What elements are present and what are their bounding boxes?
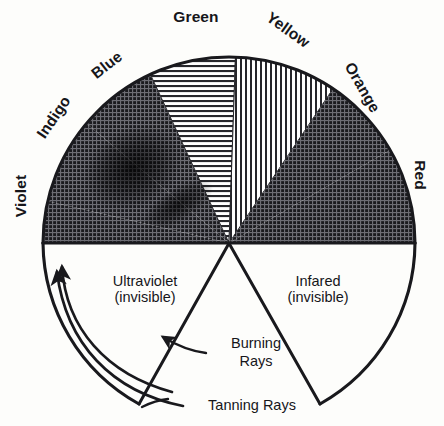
yellow-label: Yellow <box>263 8 313 51</box>
blue-label: Blue <box>88 47 125 81</box>
indigo-label: Indigo <box>33 93 73 142</box>
spectrum-figure: Violet Indigo Blue Green Yellow Orange R… <box>0 0 444 426</box>
tanning-rays-label: Tanning Rays <box>208 397 296 413</box>
spectrum-diagram: Violet Indigo Blue Green Yellow Orange R… <box>0 0 444 426</box>
ray-annotation-labels: Burning Rays Tanning Rays <box>208 335 296 413</box>
ultraviolet-label-line1: Ultraviolet <box>113 273 177 289</box>
violet-label: Violet <box>12 175 29 218</box>
tanning-rays-leader <box>142 399 168 407</box>
ultraviolet-boundary-ray <box>139 245 228 404</box>
infrared-label-line2: (invisible) <box>287 289 348 305</box>
infrared-arc <box>320 243 415 404</box>
invisible-region-labels: Ultraviolet (invisible) Infared (invisib… <box>113 273 349 305</box>
infrared-label-line1: Infared <box>295 273 340 289</box>
ultraviolet-label-line2: (invisible) <box>114 289 175 305</box>
ultraviolet-arc <box>43 243 139 404</box>
red-label: Red <box>412 160 429 190</box>
burning-rays-label-line2: Rays <box>239 353 272 369</box>
burning-rays-label-line1: Burning <box>231 335 281 351</box>
invisible-region-outlines <box>43 243 415 404</box>
green-label: Green <box>173 8 218 25</box>
infrared-boundary-ray <box>230 245 320 404</box>
